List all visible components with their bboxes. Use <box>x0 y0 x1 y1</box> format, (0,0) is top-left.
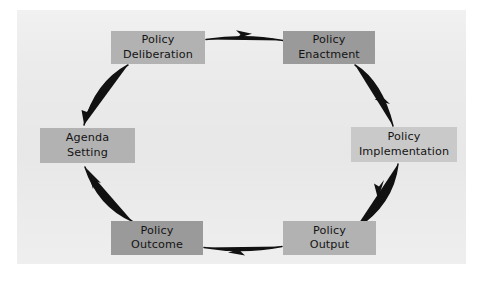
policy-cycle-diagram: Policy Deliberation Policy Enactment Pol… <box>0 0 481 284</box>
node-policy-enactment-line1: Policy <box>298 33 360 47</box>
node-policy-enactment[interactable]: Policy Enactment <box>283 31 375 64</box>
node-policy-implementation-line1: Policy <box>359 130 449 144</box>
arrow-path-enactment-to-implementation <box>355 65 393 126</box>
node-agenda-setting-line2: Setting <box>66 146 109 160</box>
node-policy-outcome[interactable]: Policy Outcome <box>111 221 203 255</box>
node-agenda-setting-line1: Agenda <box>66 131 109 145</box>
node-policy-output[interactable]: Policy Output <box>283 221 376 255</box>
node-policy-implementation-line2: Implementation <box>359 145 449 159</box>
node-policy-output-line2: Output <box>310 238 349 252</box>
node-policy-deliberation-line2: Deliberation <box>123 48 193 62</box>
node-policy-deliberation-line1: Policy <box>123 33 193 47</box>
arrow-path-implementation-to-output <box>355 164 398 229</box>
arrow-path-agenda-setting-to-deliberation <box>84 65 128 125</box>
node-policy-enactment-line2: Enactment <box>298 48 360 62</box>
arrow-path-deliberation-to-enactment <box>206 37 283 41</box>
node-policy-implementation[interactable]: Policy Implementation <box>351 127 457 162</box>
node-policy-deliberation[interactable]: Policy Deliberation <box>111 31 205 64</box>
node-policy-output-line1: Policy <box>310 224 349 238</box>
node-policy-outcome-line2: Outcome <box>131 238 183 252</box>
node-agenda-setting[interactable]: Agenda Setting <box>40 128 135 163</box>
node-policy-outcome-line1: Policy <box>131 224 183 238</box>
